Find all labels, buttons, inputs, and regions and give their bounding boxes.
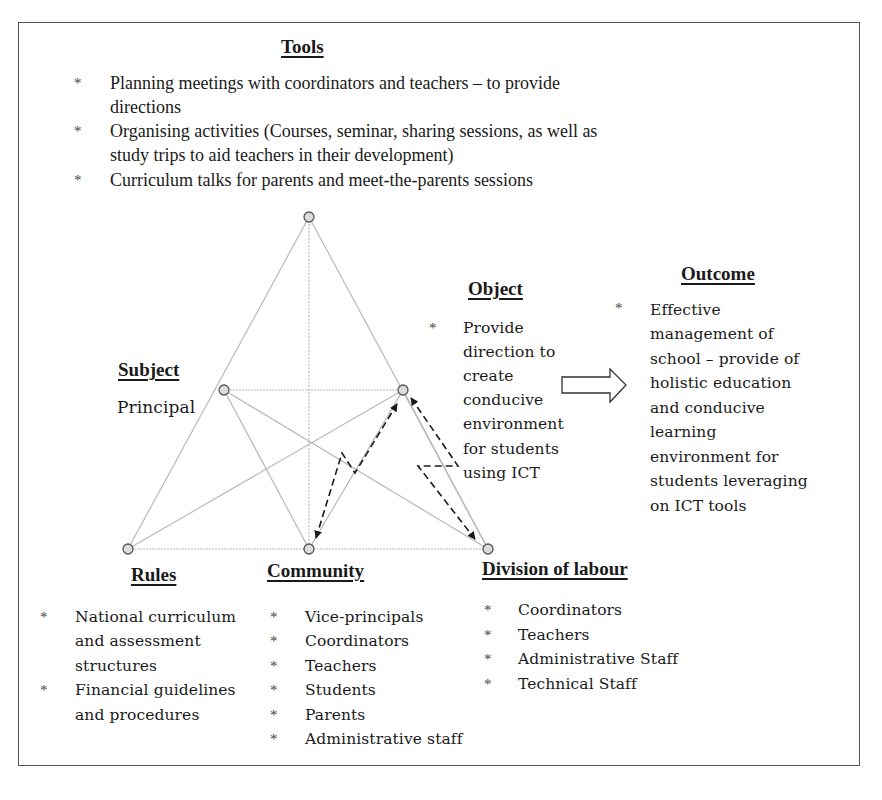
bullet-icon: * (484, 623, 492, 647)
bullet-icon: * (74, 119, 82, 143)
community-item: Coordinators (305, 629, 409, 653)
outcome-line: students leveraging (650, 469, 808, 493)
node-community (304, 544, 314, 554)
arrow-community-object (316, 404, 397, 538)
bullet-icon: * (270, 703, 278, 727)
node-subject (219, 385, 229, 395)
rules-item-2-line-1: Financial guidelines (75, 678, 236, 702)
object-line: using ICT (463, 461, 540, 485)
object-line: for students (463, 437, 559, 461)
outcome-heading: Outcome (681, 263, 755, 285)
outcome-line: environment for (650, 445, 779, 469)
bullet-icon: * (270, 727, 278, 751)
bullet-icon: * (270, 629, 278, 653)
outcome-line: holistic education (650, 371, 791, 395)
nodes (123, 212, 493, 554)
bullet-icon: * (484, 647, 492, 671)
edge-object-community (309, 390, 403, 549)
object-to-outcome-arrow (562, 369, 626, 402)
tools-item-2-line-2: study trips to aid teachers in their dev… (110, 143, 453, 167)
outcome-line: on ICT tools (650, 494, 747, 518)
community-item: Parents (305, 703, 365, 727)
bullet-icon: * (40, 678, 48, 702)
rules-heading: Rules (131, 564, 176, 586)
community-item: Administrative staff (305, 727, 462, 751)
bullet-icon: * (270, 654, 278, 678)
community-item: Students (305, 678, 376, 702)
object-line: environment (463, 412, 564, 436)
node-division (483, 544, 493, 554)
outcome-line: school – provide of (650, 347, 799, 371)
division-of-labour-heading: Division of labour (482, 558, 628, 580)
tools-item-3-line-1: Curriculum talks for parents and meet-th… (110, 168, 533, 192)
node-rules (123, 544, 133, 554)
division-item: Administrative Staff (518, 647, 678, 671)
bullet-icon: * (429, 316, 437, 340)
tension-arrows (316, 398, 475, 539)
bullet-icon: * (484, 672, 492, 696)
outcome-line: Effective (650, 298, 721, 322)
triangle-edges (128, 217, 488, 549)
bullet-icon: * (484, 598, 492, 622)
division-item: Teachers (518, 623, 590, 647)
community-heading: Community (267, 560, 364, 582)
division-item: Coordinators (518, 598, 622, 622)
node-tools (304, 212, 314, 222)
bullet-icon: * (40, 605, 48, 629)
object-line: Provide (463, 316, 524, 340)
outcome-line: and conducive (650, 396, 765, 420)
outcome-line: learning (650, 420, 716, 444)
outcome-line: management of (650, 322, 774, 346)
tools-item-1-line-1: Planning meetings with coordinators and … (110, 71, 560, 95)
object-line: create (463, 364, 514, 388)
bullet-icon: * (615, 296, 623, 320)
bullet-icon: * (270, 605, 278, 629)
rules-item-2-line-2: and procedures (75, 703, 199, 727)
community-item: Teachers (305, 654, 377, 678)
bullet-icon: * (74, 71, 82, 95)
subject-heading: Subject (118, 359, 179, 381)
bullet-icon: * (74, 168, 82, 192)
subject-value: Principal (117, 395, 195, 419)
tools-item-1-line-2: directions (110, 95, 181, 119)
tools-heading: Tools (281, 36, 324, 58)
object-line: direction to (463, 340, 555, 364)
rules-item-1-line-3: structures (75, 654, 157, 678)
node-object (398, 385, 408, 395)
tools-item-2-line-1: Organising activities (Courses, seminar,… (110, 119, 597, 143)
object-heading: Object (468, 278, 523, 300)
community-item: Vice-principals (305, 605, 423, 629)
rules-item-1-line-2: and assessment (75, 629, 201, 653)
bullet-icon: * (270, 678, 278, 702)
division-item: Technical Staff (518, 672, 637, 696)
rules-item-1-line-1: National curriculum (75, 605, 236, 629)
object-line: conducive (463, 388, 543, 412)
